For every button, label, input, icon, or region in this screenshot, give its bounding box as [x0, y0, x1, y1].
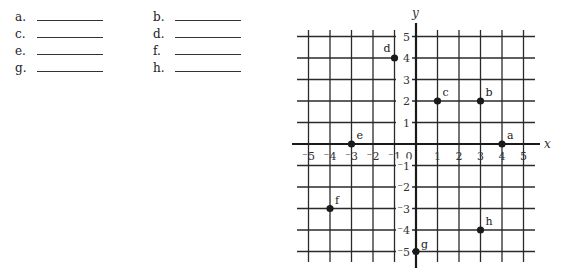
- point-label-f: f: [335, 194, 340, 207]
- point-label-e: e: [357, 129, 364, 142]
- x-tick-label: ⁻2: [367, 150, 380, 163]
- y-axis-label: y: [411, 6, 419, 20]
- point-label-b: b: [486, 86, 493, 99]
- y-tick-label: ⁻2: [397, 181, 410, 194]
- y-tick-label: ⁻1: [397, 160, 410, 173]
- y-tick-label: 3: [403, 74, 410, 87]
- y-tick-label: 2: [403, 95, 410, 108]
- plotted-points: abcdefgh: [326, 42, 514, 255]
- x-tick-label: ⁻4: [324, 150, 337, 163]
- point-f: [326, 205, 333, 212]
- x-tick-label: ⁻5: [302, 150, 315, 163]
- point-label-g: g: [421, 238, 428, 251]
- point-d: [391, 54, 398, 61]
- point-c: [434, 97, 441, 104]
- point-g: [412, 248, 419, 255]
- y-tick-label: ⁻5: [397, 246, 410, 259]
- point-label-c: c: [443, 86, 449, 99]
- x-tick-label: 4: [499, 150, 506, 163]
- x-tick-label: 5: [520, 150, 527, 163]
- x-tick-label: 2: [456, 150, 463, 163]
- x-tick-label: 3: [477, 150, 484, 163]
- point-e: [348, 140, 355, 147]
- point-label-d: d: [384, 42, 391, 55]
- coordinate-plane: xy ⁻5⁻4⁻3⁻2⁻112345054321⁻1⁻2⁻3⁻4⁻5 abcde…: [0, 0, 564, 280]
- y-tick-label: 5: [403, 31, 410, 44]
- point-b: [477, 97, 484, 104]
- point-label-a: a: [507, 129, 514, 142]
- point-label-h: h: [486, 215, 493, 228]
- point-h: [477, 226, 484, 233]
- x-tick-label: ⁻3: [345, 150, 358, 163]
- x-tick-label: 1: [434, 150, 441, 163]
- y-tick-label: 4: [403, 52, 410, 65]
- y-tick-label: ⁻3: [397, 203, 410, 216]
- y-tick-label: ⁻4: [397, 224, 410, 237]
- y-tick-label: 1: [403, 117, 410, 130]
- point-a: [498, 140, 505, 147]
- x-axis-label: x: [544, 137, 551, 151]
